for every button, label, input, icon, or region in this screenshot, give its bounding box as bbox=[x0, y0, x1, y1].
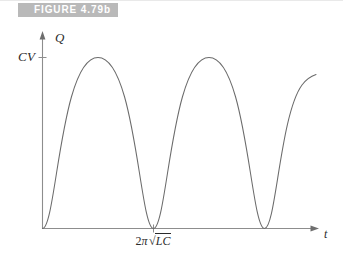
y-axis-arrowhead bbox=[40, 31, 46, 40]
figure-container: FIGURE 4.79b CV Q t 2π√LC bbox=[0, 0, 343, 261]
tick-pi-symbol: π bbox=[142, 234, 148, 248]
x-axis-arrowhead bbox=[311, 226, 320, 232]
charge-curve bbox=[43, 58, 317, 229]
x-axis-tick-label: 2π√LC bbox=[96, 235, 211, 247]
tick-radicand: LC bbox=[155, 233, 172, 248]
x-axis-label: t bbox=[324, 228, 327, 240]
y-axis-label: Q bbox=[55, 31, 64, 44]
lc-circuit-charge-plot bbox=[0, 0, 343, 261]
y-axis-tick-label: CV bbox=[18, 50, 35, 63]
